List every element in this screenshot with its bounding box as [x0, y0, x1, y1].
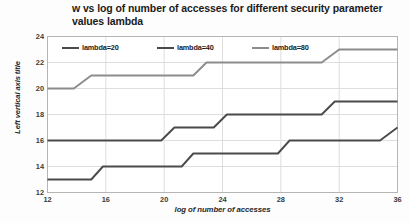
x-tick-36: 36: [386, 195, 410, 204]
legend-swatch-icon: [62, 47, 79, 49]
chart-container: w vs log of number of accesses for diffe…: [0, 0, 410, 223]
y-tick-16: 16: [28, 136, 44, 145]
legend-entry-lambda-80[interactable]: lambda=80: [252, 42, 309, 53]
y-tick-20: 20: [28, 84, 44, 93]
y-axis-title: Left vertical axis title: [13, 34, 22, 162]
chart-legend: lambda=20lambda=40lambda=80: [62, 42, 362, 53]
x-tick-28: 28: [269, 195, 293, 204]
plot-area: [47, 36, 398, 193]
y-axis-tick-labels: 12141618202224: [24, 36, 44, 193]
x-tick-16: 16: [94, 195, 118, 204]
y-tick-22: 22: [28, 58, 44, 67]
legend-swatch-icon: [157, 47, 174, 49]
chart-title: w vs log of number of accesses for diffe…: [72, 2, 402, 28]
legend-entry-lambda-20[interactable]: lambda=20: [62, 42, 119, 53]
x-tick-20: 20: [152, 195, 176, 204]
x-axis-title: log of number of accesses: [47, 205, 398, 214]
y-tick-18: 18: [28, 110, 44, 119]
legend-swatch-icon: [252, 47, 269, 49]
legend-label: lambda=80: [272, 43, 309, 52]
legend-entry-lambda-40[interactable]: lambda=40: [157, 42, 214, 53]
y-tick-14: 14: [28, 162, 44, 171]
y-tick-24: 24: [28, 32, 44, 41]
x-tick-32: 32: [327, 195, 351, 204]
legend-label: lambda=20: [82, 43, 119, 52]
x-tick-12: 12: [36, 195, 60, 204]
plot-svg: [47, 36, 398, 193]
x-tick-24: 24: [211, 195, 235, 204]
legend-label: lambda=40: [177, 43, 214, 52]
